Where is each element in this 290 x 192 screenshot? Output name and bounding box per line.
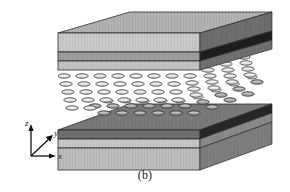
z-axis: z xyxy=(24,118,34,156)
liquid-crystal-cell-diagram: z y x xyxy=(0,0,290,192)
coordinate-axes: z y x xyxy=(24,118,62,161)
figure-caption: (b) xyxy=(0,168,290,183)
y-axis-label: y xyxy=(53,128,58,138)
z-axis-label: z xyxy=(24,118,29,128)
y-axis: y xyxy=(31,128,58,156)
x-axis: x xyxy=(31,151,62,161)
x-axis-label: x xyxy=(57,151,62,161)
figure-container: z y x (b) xyxy=(0,0,290,192)
